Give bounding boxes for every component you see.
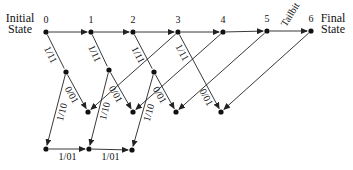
state-number-label: 1 xyxy=(89,14,94,25)
edge-label: 0/01 xyxy=(197,87,215,108)
edge-label: 1/11 xyxy=(173,42,191,63)
edge-label: 1/10 xyxy=(54,102,69,122)
state-node-b1 xyxy=(86,146,91,151)
edge-label: 1/01 xyxy=(102,151,120,162)
edge-label: 0/01 xyxy=(151,84,169,105)
edge-label: 0/01 xyxy=(107,83,125,104)
state-node-r1 xyxy=(130,109,135,114)
state-node-r3 xyxy=(218,109,223,114)
state-node-b0 xyxy=(43,146,48,151)
edge-labels: Tailbit1/111/111/111/110/010/010/010/011… xyxy=(42,0,302,162)
state-node-t2 xyxy=(130,29,135,34)
edge-label: 1/01 xyxy=(59,151,77,162)
svg-text:State: State xyxy=(321,22,345,36)
state-node-t6 xyxy=(308,28,313,33)
state-node-m0 xyxy=(63,69,68,74)
state-node-t3 xyxy=(175,29,180,34)
state-number-label: 3 xyxy=(176,14,181,25)
edge-label: 1/10 xyxy=(97,101,112,121)
state-number-label: 6 xyxy=(309,13,314,24)
state-node-t5 xyxy=(264,28,269,33)
state-node-b2 xyxy=(129,147,134,152)
edge-label: 0/01 xyxy=(63,84,81,105)
state-node-r0 xyxy=(85,109,90,114)
final-state-label: Final State xyxy=(321,11,346,36)
edge-label: 1/11 xyxy=(86,43,103,63)
state-node-t0 xyxy=(43,29,48,34)
tailbit-label: Tailbit xyxy=(278,0,301,28)
state-node-m2 xyxy=(151,69,156,74)
state-transition-diagram: Initial State Final State Tailbit1/111/1… xyxy=(0,0,353,170)
edge-b1-b2 xyxy=(92,149,128,150)
state-node-t1 xyxy=(88,29,93,34)
state-node-t4 xyxy=(220,29,225,34)
edge-t6-r3 xyxy=(224,33,309,109)
edge-t4-t5 xyxy=(226,31,263,32)
state-number-label: 5 xyxy=(265,13,270,24)
nodes: 0123456 xyxy=(43,13,313,153)
state-node-m1 xyxy=(106,67,111,72)
state-number-label: 2 xyxy=(131,14,136,25)
state-node-r2 xyxy=(173,109,178,114)
edge-t5-r2 xyxy=(179,33,265,109)
svg-text:State: State xyxy=(8,22,32,36)
edge-label: 1/10 xyxy=(141,103,156,123)
state-number-label: 4 xyxy=(221,14,226,25)
edge-label: 1/11 xyxy=(42,44,60,65)
state-number-label: 0 xyxy=(44,14,49,25)
initial-state-label: Initial State xyxy=(6,11,35,36)
